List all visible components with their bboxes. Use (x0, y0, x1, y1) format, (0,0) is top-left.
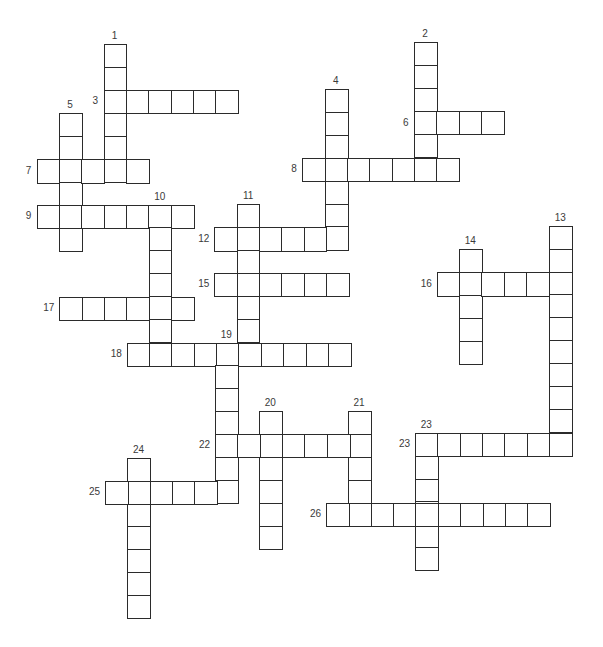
grid-cell[interactable] (259, 411, 283, 435)
grid-cell[interactable] (149, 227, 173, 251)
grid-cell[interactable] (549, 340, 573, 364)
grid-cell[interactable] (371, 503, 395, 527)
grid-cell[interactable] (259, 503, 283, 527)
grid-cell[interactable] (527, 503, 551, 527)
grid-cell[interactable] (549, 272, 573, 296)
grid-cell[interactable] (81, 205, 105, 229)
grid-cell[interactable] (104, 113, 128, 137)
grid-cell[interactable] (348, 434, 372, 458)
grid-cell[interactable] (59, 113, 83, 137)
grid-cell[interactable] (259, 457, 283, 481)
grid-cell[interactable] (328, 343, 352, 367)
grid-cell[interactable] (171, 205, 195, 229)
grid-cell[interactable] (171, 297, 195, 321)
grid-cell[interactable] (283, 343, 307, 367)
grid-cell[interactable] (127, 481, 151, 505)
grid-cell[interactable] (459, 249, 483, 273)
grid-cell[interactable] (237, 227, 261, 251)
grid-cell[interactable] (215, 434, 239, 458)
grid-cell[interactable] (194, 481, 218, 505)
grid-cell[interactable] (127, 526, 151, 550)
grid-cell[interactable] (414, 65, 438, 89)
grid-cell[interactable] (150, 481, 174, 505)
grid-cell[interactable] (459, 341, 483, 365)
grid-cell[interactable] (348, 457, 372, 481)
grid-cell[interactable] (325, 158, 349, 182)
grid-cell[interactable] (216, 343, 240, 367)
grid-cell[interactable] (104, 44, 128, 68)
grid-cell[interactable] (327, 434, 351, 458)
grid-cell[interactable] (325, 135, 349, 159)
grid-cell[interactable] (549, 409, 573, 433)
grid-cell[interactable] (149, 343, 173, 367)
grid-cell[interactable] (149, 319, 173, 343)
grid-cell[interactable] (459, 272, 483, 296)
grid-cell[interactable] (549, 433, 573, 457)
grid-cell[interactable] (549, 226, 573, 250)
grid-cell[interactable] (414, 111, 438, 135)
grid-cell[interactable] (81, 159, 105, 183)
grid-cell[interactable] (104, 90, 128, 114)
grid-cell[interactable] (171, 343, 195, 367)
grid-cell[interactable] (127, 572, 151, 596)
grid-cell[interactable] (127, 549, 151, 573)
grid-cell[interactable] (127, 343, 151, 367)
grid-cell[interactable] (481, 272, 505, 296)
grid-cell[interactable] (505, 503, 529, 527)
grid-cell[interactable] (481, 111, 505, 135)
grid-cell[interactable] (438, 503, 462, 527)
grid-cell[interactable] (415, 547, 439, 571)
grid-cell[interactable] (415, 524, 439, 548)
grid-cell[interactable] (193, 90, 217, 114)
grid-cell[interactable] (104, 297, 128, 321)
grid-cell[interactable] (215, 365, 239, 389)
grid-cell[interactable] (59, 228, 83, 252)
grid-cell[interactable] (437, 272, 461, 296)
grid-cell[interactable] (325, 181, 349, 205)
grid-cell[interactable] (237, 204, 261, 228)
grid-cell[interactable] (259, 273, 283, 297)
grid-cell[interactable] (105, 481, 129, 505)
grid-cell[interactable] (504, 272, 528, 296)
grid-cell[interactable] (126, 205, 150, 229)
grid-cell[interactable] (281, 273, 305, 297)
grid-cell[interactable] (325, 204, 349, 228)
grid-cell[interactable] (437, 433, 461, 457)
grid-cell[interactable] (37, 205, 61, 229)
grid-cell[interactable] (59, 297, 83, 321)
grid-cell[interactable] (215, 388, 239, 412)
grid-cell[interactable] (414, 42, 438, 66)
grid-cell[interactable] (261, 343, 285, 367)
grid-cell[interactable] (459, 111, 483, 135)
grid-cell[interactable] (414, 134, 438, 158)
grid-cell[interactable] (369, 158, 393, 182)
grid-cell[interactable] (325, 226, 349, 250)
grid-cell[interactable] (414, 158, 438, 182)
grid-cell[interactable] (549, 363, 573, 387)
grid-cell[interactable] (483, 503, 507, 527)
grid-cell[interactable] (304, 227, 328, 251)
grid-cell[interactable] (104, 67, 128, 91)
grid-cell[interactable] (415, 503, 439, 527)
grid-cell[interactable] (194, 343, 218, 367)
grid-cell[interactable] (415, 479, 439, 503)
grid-cell[interactable] (347, 158, 371, 182)
grid-cell[interactable] (325, 112, 349, 136)
grid-cell[interactable] (127, 504, 151, 528)
grid-cell[interactable] (215, 411, 239, 435)
grid-cell[interactable] (325, 89, 349, 113)
grid-cell[interactable] (326, 273, 350, 297)
grid-cell[interactable] (172, 481, 196, 505)
grid-cell[interactable] (126, 297, 150, 321)
grid-cell[interactable] (127, 458, 151, 482)
grid-cell[interactable] (82, 297, 106, 321)
grid-cell[interactable] (148, 205, 172, 229)
grid-cell[interactable] (237, 296, 261, 320)
grid-cell[interactable] (149, 273, 173, 297)
grid-cell[interactable] (104, 205, 128, 229)
grid-cell[interactable] (215, 457, 239, 481)
grid-cell[interactable] (302, 158, 326, 182)
grid-cell[interactable] (304, 434, 328, 458)
grid-cell[interactable] (259, 434, 283, 458)
grid-cell[interactable] (393, 503, 417, 527)
